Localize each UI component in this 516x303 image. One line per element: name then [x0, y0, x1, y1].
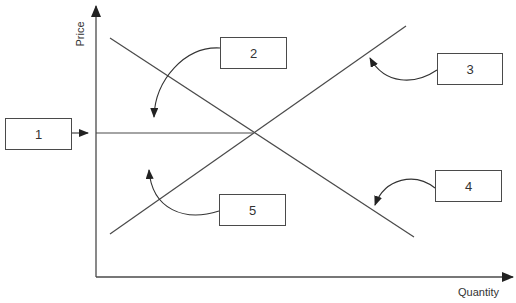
callout-4-arrow — [375, 179, 435, 205]
y-axis-label: Price — [74, 21, 86, 46]
x-axis-label: Quantity — [458, 286, 499, 298]
callout-box-2: 2 — [220, 37, 287, 69]
callout-box-4: 4 — [435, 170, 502, 202]
callout-box-1: 1 — [5, 118, 72, 150]
callout-box-5: 5 — [219, 194, 286, 226]
callout-3-arrow — [370, 58, 437, 80]
callout-label-5: 5 — [249, 203, 256, 218]
callout-label-1: 1 — [35, 127, 42, 142]
callout-box-3: 3 — [437, 53, 503, 85]
callout-label-4: 4 — [465, 179, 472, 194]
callout-label-3: 3 — [466, 62, 473, 77]
callout-2-arrow — [154, 48, 220, 117]
callout-5-arrow — [149, 170, 219, 215]
callout-label-2: 2 — [250, 46, 257, 61]
